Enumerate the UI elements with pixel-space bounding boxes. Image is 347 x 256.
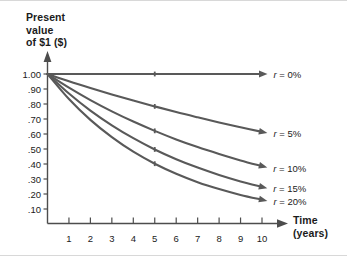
x-axis-tick-label: 10 bbox=[257, 233, 268, 244]
y-axis-tick-label: .60 bbox=[0, 129, 41, 140]
y-axis-title: Present value of $1 ($) bbox=[26, 11, 67, 49]
y-axis-tick-label: .20 bbox=[0, 189, 41, 200]
y-axis-tick-label: .80 bbox=[0, 99, 41, 110]
y-axis-tick-label: .40 bbox=[0, 159, 41, 170]
y-axis-tick-label: .10 bbox=[0, 204, 41, 215]
x-axis-tick-label: 3 bbox=[109, 233, 114, 244]
curve-data-marker bbox=[154, 128, 156, 133]
x-axis-tick-label: 8 bbox=[216, 233, 221, 244]
y-axis-tick-label: .50 bbox=[0, 144, 41, 155]
chart-curves bbox=[48, 74, 263, 200]
present-value-chart-figure: Present value of $1 ($) Time (years) 1.0… bbox=[0, 0, 347, 256]
series-label-10pct: r = 10% bbox=[273, 162, 306, 173]
x-axis-tick-label: 9 bbox=[238, 233, 243, 244]
series-label-15pct: r = 15% bbox=[273, 183, 306, 194]
rate-value: 5% bbox=[287, 128, 301, 139]
rate-value: 20% bbox=[287, 195, 306, 206]
x-axis-tick-label: 6 bbox=[174, 233, 179, 244]
curve-arrowhead-icon bbox=[258, 196, 267, 203]
y-axis-tick-label: .90 bbox=[0, 84, 41, 95]
x-axis-ticks bbox=[69, 218, 262, 224]
rate-value: 0% bbox=[288, 69, 302, 80]
y-axis-tick-label: .30 bbox=[0, 174, 41, 185]
rate-value: 15% bbox=[287, 183, 306, 194]
x-axis-title: Time (years) bbox=[293, 214, 328, 239]
curve-arrowhead-icon bbox=[258, 183, 267, 190]
x-axis-tick-label: 1 bbox=[66, 233, 71, 244]
y-axis-arrow-icon bbox=[44, 51, 52, 62]
x-axis-tick-label: 4 bbox=[131, 233, 136, 244]
curve-data-marker bbox=[154, 72, 156, 77]
y-axis-tick-label: 1.00 bbox=[0, 69, 41, 80]
curve-data-marker bbox=[154, 147, 156, 152]
chart-curve-markers bbox=[154, 72, 156, 167]
x-axis-tick-label: 7 bbox=[195, 233, 200, 244]
rate-equals: = bbox=[277, 195, 288, 206]
x-axis-arrow-icon bbox=[277, 219, 288, 227]
series-label-20pct: r = 20% bbox=[273, 195, 306, 206]
rate-value: 10% bbox=[287, 162, 306, 173]
chart-curve-arrowheads bbox=[258, 71, 267, 203]
curve-data-marker bbox=[154, 161, 156, 166]
rate-equals: = bbox=[276, 162, 287, 173]
x-axis-tick-label: 2 bbox=[88, 233, 93, 244]
x-axis-tick-label: 5 bbox=[152, 233, 157, 244]
curve-arrowhead-icon bbox=[258, 128, 267, 135]
curve-arrowhead-icon bbox=[258, 162, 267, 169]
curve-arrowhead-icon bbox=[259, 71, 268, 78]
rate-equals: = bbox=[277, 128, 288, 139]
curve-data-marker bbox=[154, 104, 156, 109]
curve-10pct bbox=[48, 74, 263, 166]
series-label-5pct: r = 5% bbox=[273, 128, 301, 139]
rate-equals: = bbox=[277, 69, 288, 80]
series-label-0pct: r = 0% bbox=[274, 69, 302, 80]
rate-equals: = bbox=[276, 183, 287, 194]
y-axis-tick-label: .70 bbox=[0, 114, 41, 125]
